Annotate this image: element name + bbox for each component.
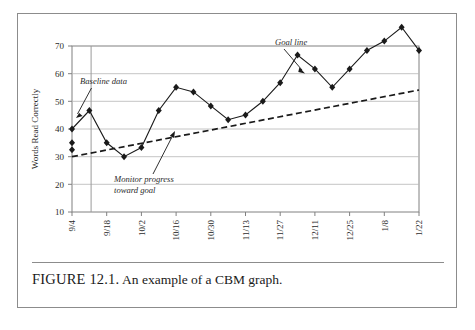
y-tick-label: 10 (55, 207, 65, 217)
x-axis-ticks: 9/4 9/18 10/2 10/16 10/30 11/13 11/27 12… (67, 220, 424, 241)
y-tick-label: 20 (55, 180, 65, 190)
x-tick-label: 11/27 (275, 220, 285, 241)
y-tick-label: 40 (55, 124, 65, 134)
x-tick-label: 12/11 (310, 220, 320, 240)
annotation-baseline-data-label: Baseline data (80, 76, 127, 86)
x-tick-label: 9/18 (102, 220, 112, 237)
x-tick-label: 1/22 (414, 220, 424, 236)
figure-caption-label: FIGURE 12.1. (32, 271, 119, 287)
x-tick-label: 9/4 (67, 220, 77, 232)
x-tick-marks (72, 212, 419, 216)
x-tick-label: 10/2 (137, 220, 147, 236)
y-axis-ticks: 70 60 50 40 30 20 10 (55, 41, 65, 217)
y-tick-label: 50 (55, 97, 65, 107)
annotation-goal-line-label: Goal line (275, 37, 307, 47)
figure-caption: FIGURE 12.1. An example of a CBM graph. (32, 270, 444, 289)
chart-svg: 70 60 50 40 30 20 10 Words Read Correctl… (18, 14, 458, 259)
annotation-monitor-progress-line1: Monitor progress (113, 174, 174, 184)
y-axis-title: Words Read Correctly (30, 88, 40, 169)
data-point (381, 38, 387, 45)
annotation-monitor-progress-line2: toward goal (114, 185, 156, 195)
caption-divider (32, 262, 444, 263)
x-tick-label: 11/13 (241, 220, 251, 241)
x-tick-label: 10/16 (171, 220, 181, 241)
figure-page: 70 60 50 40 30 20 10 Words Read Correctl… (0, 0, 475, 330)
y-tick-label: 70 (55, 41, 65, 51)
y-tick-label: 30 (55, 152, 65, 162)
x-tick-label: 10/30 (206, 220, 216, 241)
x-tick-label: 1/8 (380, 220, 390, 232)
y-tick-label: 60 (55, 69, 65, 79)
figure-box: 70 60 50 40 30 20 10 Words Read Correctl… (17, 13, 457, 308)
x-tick-label: 12/25 (345, 220, 355, 241)
figure-caption-text: An example of a CBM graph. (119, 272, 282, 287)
cbm-chart: 70 60 50 40 30 20 10 Words Read Correctl… (18, 14, 458, 259)
